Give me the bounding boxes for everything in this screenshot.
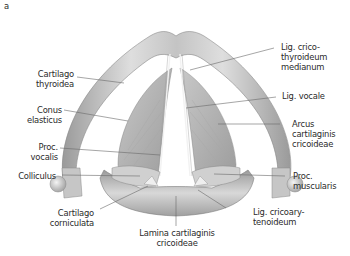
label-cartilago-thyroidea: Cartilago thyroidea [20, 69, 74, 89]
thyroid-cartilage [62, 32, 291, 199]
label-lig-cricothyroideum-medianum: Lig. crico- thyroideum medianum [281, 42, 327, 72]
label-proc-vocalis: Proc. vocalis [4, 142, 58, 162]
larynx-diagram: a Cartilago thyroidea Conus elasticus Pr… [0, 0, 350, 256]
conus-elasticus [118, 68, 236, 182]
label-arcus-cartilaginis-cricoideae: Arcus cartilaginis cricoideae [292, 119, 336, 149]
label-conus-elasticus: Conus elasticus [8, 105, 62, 125]
label-proc-muscularis: Proc. muscularis [293, 171, 336, 191]
label-lamina-cartilaginis-cricoideae: Lamina cartilaginis cricoideae [130, 228, 224, 248]
label-lig-vocale: Lig. vocale [282, 91, 325, 101]
label-lig-cricoarytenoideum: Lig. cricoary- tenoideum [253, 207, 304, 227]
label-colliculus: Colliculus [0, 171, 56, 181]
label-cartilago-corniculata: Cartilago corniculata [36, 208, 94, 228]
panel-letter: a [4, 1, 9, 11]
cricoid-cartilage [100, 166, 254, 216]
